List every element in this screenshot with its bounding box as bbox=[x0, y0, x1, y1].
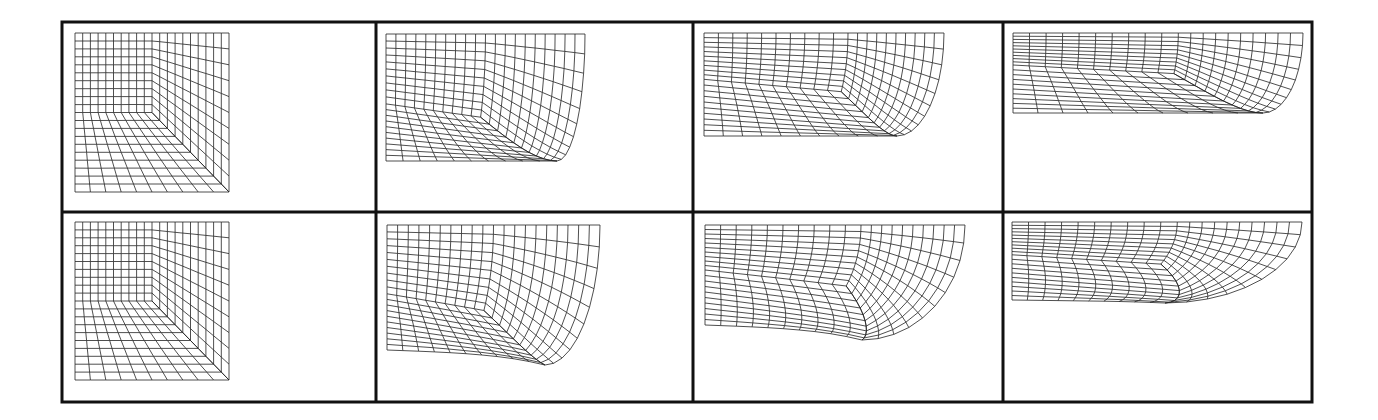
mesh-panel-top-row-stage-4 bbox=[1013, 33, 1303, 113]
mesh-layer bbox=[75, 33, 1303, 380]
mesh-line bbox=[387, 333, 531, 355]
mesh-line bbox=[1232, 33, 1253, 105]
mesh-line bbox=[1029, 33, 1038, 113]
mesh-line bbox=[544, 34, 566, 159]
mesh-line bbox=[1072, 222, 1079, 301]
mesh-line bbox=[387, 350, 545, 365]
mesh-line bbox=[386, 97, 561, 159]
figure-canvas bbox=[0, 0, 1378, 420]
mesh-panel-top-row-stage-3 bbox=[704, 33, 944, 136]
mesh-line bbox=[1013, 49, 1291, 90]
mesh-line bbox=[1012, 248, 1208, 299]
mesh-line bbox=[1027, 222, 1029, 300]
mesh-line bbox=[889, 33, 925, 134]
frame-layer bbox=[62, 22, 1312, 402]
mesh-line bbox=[1224, 33, 1241, 101]
mesh-line bbox=[862, 225, 965, 340]
mesh-line bbox=[514, 34, 526, 143]
mesh-deformation-figure bbox=[0, 0, 1378, 420]
mesh-line bbox=[705, 239, 954, 278]
mesh-panel-bottom-row-stage-2 bbox=[387, 225, 600, 365]
mesh-line bbox=[1012, 225, 1300, 234]
mesh-line bbox=[1214, 33, 1228, 96]
mesh-panel-top-row-stage-2 bbox=[386, 34, 585, 161]
mesh-line bbox=[498, 34, 506, 131]
mesh-line bbox=[1165, 222, 1302, 303]
mesh-line bbox=[397, 225, 403, 351]
mesh-line bbox=[733, 225, 737, 326]
mesh-line bbox=[1178, 222, 1265, 298]
mesh-line bbox=[452, 34, 506, 161]
mesh-line bbox=[874, 33, 896, 123]
mesh-line bbox=[818, 225, 834, 334]
mesh-line bbox=[1013, 36, 1303, 45]
mesh-line bbox=[529, 34, 545, 152]
mesh-line bbox=[849, 33, 858, 99]
mesh-panel-bottom-row-stage-4 bbox=[1012, 222, 1302, 303]
mesh-panel-bottom-row-stage-3 bbox=[705, 225, 965, 340]
mesh-panel-bottom-row-stage-1 bbox=[75, 222, 229, 380]
mesh-line bbox=[705, 230, 964, 244]
mesh-line bbox=[1057, 222, 1063, 301]
mesh-panel-top-row-stage-1 bbox=[75, 33, 229, 192]
mesh-line bbox=[507, 225, 526, 332]
mesh-line bbox=[704, 56, 930, 106]
mesh-line bbox=[880, 33, 906, 127]
mesh-line bbox=[704, 42, 942, 65]
mesh-line bbox=[396, 34, 404, 161]
mesh-line bbox=[405, 34, 420, 161]
mesh-line bbox=[500, 225, 515, 325]
mesh-line bbox=[1146, 222, 1163, 302]
